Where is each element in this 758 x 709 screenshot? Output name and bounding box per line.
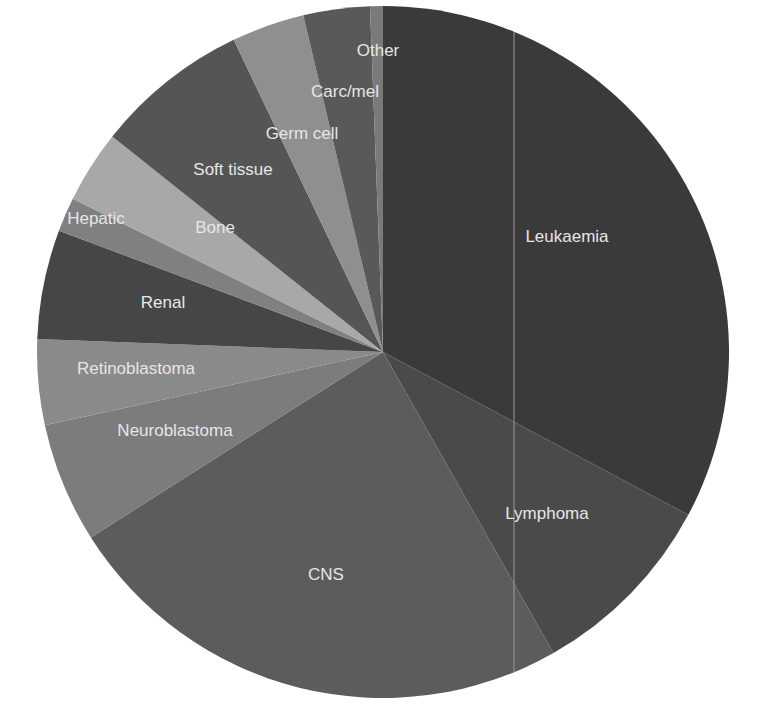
slice-label: Leukaemia (525, 227, 609, 246)
slice-label: Bone (195, 218, 235, 237)
slice-label: Retinoblastoma (77, 359, 196, 378)
slice-label: Soft tissue (193, 160, 272, 179)
slice-label: Other (357, 41, 400, 60)
slice-label: Renal (141, 293, 185, 312)
slice-label: CNS (308, 565, 344, 584)
slice-label: Lymphoma (505, 504, 589, 523)
slice-label: Neuroblastoma (117, 421, 233, 440)
pie-chart: LeukaemiaLymphomaCNSNeuroblastomaRetinob… (0, 0, 758, 709)
slice-label: Carc/mel (311, 82, 379, 101)
slice-label: Hepatic (67, 209, 125, 228)
pie-slices (37, 6, 729, 698)
slice-label: Germ cell (266, 124, 339, 143)
